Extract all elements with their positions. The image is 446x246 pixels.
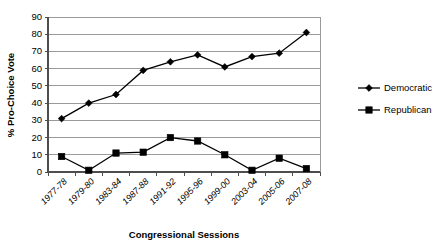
y-axis-tick-labels: 0102030405060708090 [31, 11, 48, 177]
y-axis-tick-label: 90 [31, 11, 42, 22]
y-axis-tick-label: 80 [31, 28, 42, 39]
data-point-marker [113, 150, 119, 156]
data-point-marker [85, 100, 92, 107]
series-line [62, 138, 307, 171]
x-axis-tick-label: 2005-06 [255, 176, 286, 207]
x-axis-tick-label: 1987-88 [120, 176, 150, 206]
y-axis-tick-label: 30 [31, 114, 42, 125]
y-axis-tick-label: 0 [37, 166, 42, 177]
y-axis-tick-label: 70 [31, 45, 42, 56]
x-axis-title: Congressional Sessions [129, 229, 239, 240]
data-point-marker [276, 155, 282, 161]
y-axis-tick-label: 10 [31, 149, 42, 160]
data-point-marker [194, 51, 201, 58]
data-point-marker [58, 153, 64, 159]
data-point-marker [167, 58, 174, 65]
data-point-marker [249, 167, 255, 173]
x-axis-tick-labels: 1977-781979-801983-841987-881991-921995-… [39, 176, 314, 207]
x-axis-tick-label: 1979-80 [66, 176, 96, 206]
data-point-marker [86, 167, 92, 173]
y-axis-title: % Pro-Choice Vote [5, 53, 16, 137]
plot-frame [48, 17, 320, 172]
data-point-marker [249, 53, 256, 60]
x-axis-tick-label: 2007-08 [283, 176, 314, 207]
legend-item-republican: Republican [358, 104, 432, 115]
series-democratic [58, 29, 310, 122]
chart-container: 0102030405060708090 1977-781979-801983-8… [0, 0, 446, 246]
series-republican [58, 134, 309, 173]
data-point-marker [222, 152, 228, 158]
pro-choice-vote-line-chart: 0102030405060708090 1977-781979-801983-8… [0, 0, 446, 246]
data-point-marker [303, 165, 309, 171]
data-point-marker [58, 115, 65, 122]
x-axis-tick-label: 1995-96 [175, 176, 205, 206]
y-axis-tick-label: 50 [31, 80, 42, 91]
x-axis-tick-label: 1977-78 [39, 176, 69, 206]
chart-legend: DemocraticRepublican [358, 82, 432, 115]
x-axis-tick-label: 1999-00 [202, 176, 232, 206]
data-point-marker [167, 134, 173, 140]
y-axis-tick-label: 60 [31, 63, 42, 74]
data-point-marker [221, 64, 228, 71]
data-point-marker [194, 138, 200, 144]
x-axis-tick-label: 2003-04 [228, 176, 259, 207]
gridlines [48, 17, 320, 155]
y-axis-tick-label: 40 [31, 97, 42, 108]
y-axis-tick-label: 20 [31, 132, 42, 143]
data-point-marker [140, 149, 146, 155]
legend-marker [366, 85, 373, 92]
legend-marker [366, 107, 372, 113]
x-axis-tick-label: 1991-92 [147, 176, 177, 206]
legend-label: Republican [384, 104, 432, 115]
legend-label: Democratic [384, 82, 432, 93]
x-axis-tick-label: 1983-84 [93, 176, 123, 206]
series-line [62, 33, 307, 119]
legend-item-democratic: Democratic [358, 82, 432, 93]
data-series [58, 29, 310, 173]
